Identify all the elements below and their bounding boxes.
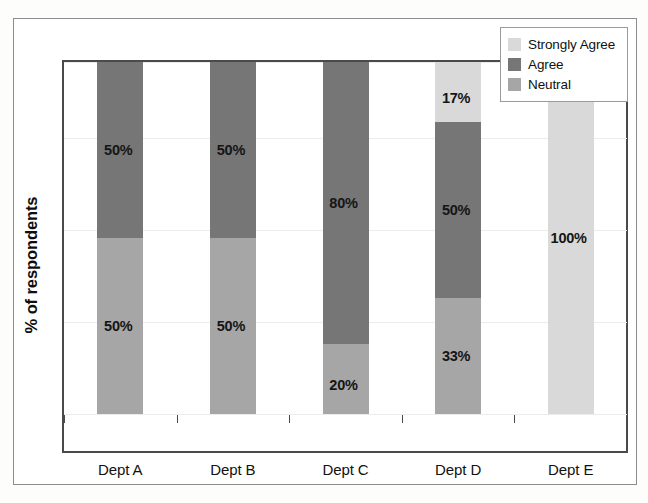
bar-segment-value-label: 33% — [442, 348, 470, 364]
bar-segment[interactable]: 80% — [323, 62, 369, 344]
bar-segment-value-label: 20% — [329, 377, 357, 393]
bar-stack: 50%50% — [210, 62, 256, 414]
x-axis-label-dept-d: Dept D — [402, 461, 515, 478]
x-axis-tick — [402, 415, 403, 423]
bar-group[interactable]: 100% — [548, 62, 594, 414]
x-axis-tick — [289, 415, 290, 423]
bar-segment-value-label: 17% — [442, 90, 470, 106]
legend-item[interactable]: Agree — [508, 54, 620, 74]
chart-legend: Strongly AgreeAgreeNeutral — [500, 27, 628, 102]
x-axis-tick — [514, 415, 515, 423]
bar-segment[interactable]: 50% — [435, 122, 481, 298]
bar-stack: 20%80% — [323, 62, 369, 414]
bar-group[interactable]: 50%50% — [97, 62, 143, 414]
legend-swatch-icon — [508, 58, 521, 71]
bar-segment-value-label: 50% — [217, 142, 245, 158]
bar-segment[interactable]: 50% — [97, 62, 143, 238]
legend-swatch-icon — [508, 38, 521, 51]
legend-item-label: Agree — [528, 57, 564, 72]
legend-item-label: Strongly Agree — [528, 37, 615, 52]
bar-group[interactable]: 33%50%17% — [435, 62, 481, 414]
bar-segment[interactable]: 17% — [435, 62, 481, 122]
x-axis-label-dept-c: Dept C — [289, 461, 402, 478]
legend-item[interactable]: Neutral — [508, 74, 620, 94]
bar-segment-value-label: 50% — [442, 202, 470, 218]
bar-segment-value-label: 50% — [104, 142, 132, 158]
x-axis-tick — [177, 415, 178, 423]
bar-segment[interactable]: 50% — [210, 238, 256, 414]
bar-stack: 100% — [548, 62, 594, 414]
y-axis-title: % of respondents — [22, 197, 41, 334]
bar-segment-value-label: 50% — [217, 318, 245, 334]
legend-item-label: Neutral — [528, 77, 571, 92]
legend-swatch-icon — [508, 78, 521, 91]
bar-segment-value-label: 100% — [551, 230, 587, 246]
bar-segment[interactable]: 100% — [548, 62, 594, 414]
legend-item[interactable]: Strongly Agree — [508, 34, 620, 54]
bar-group[interactable]: 50%50% — [210, 62, 256, 414]
bar-segment[interactable]: 50% — [97, 238, 143, 414]
bar-group[interactable]: 20%80% — [323, 62, 369, 414]
bar-stack: 33%50%17% — [435, 62, 481, 414]
x-axis-tick — [627, 415, 628, 423]
bars-layer: 50%50%50%50%20%80%33%50%17%100% — [64, 62, 627, 452]
x-axis-label-dept-b: Dept B — [177, 461, 290, 478]
x-axis-label-dept-a: Dept A — [64, 461, 177, 478]
x-axis-labels: Dept ADept BDept CDept DDept E — [64, 461, 627, 487]
bar-segment-value-label: 80% — [329, 195, 357, 211]
x-axis-label-dept-e: Dept E — [514, 461, 627, 478]
bar-segment[interactable]: 20% — [323, 344, 369, 414]
bar-segment[interactable]: 50% — [210, 62, 256, 238]
y-axis-title-container: % of respondents — [16, 150, 46, 380]
bar-stack: 50%50% — [97, 62, 143, 414]
plot-canvas: 50%50%50%50%20%80%33%50%17%100% — [64, 62, 627, 452]
chart-screenshot: % of respondents 50%50%50%50%20%80%33%50… — [0, 0, 648, 503]
x-axis-tick — [64, 415, 65, 423]
bar-segment-value-label: 50% — [104, 318, 132, 334]
bar-segment[interactable]: 33% — [435, 298, 481, 414]
